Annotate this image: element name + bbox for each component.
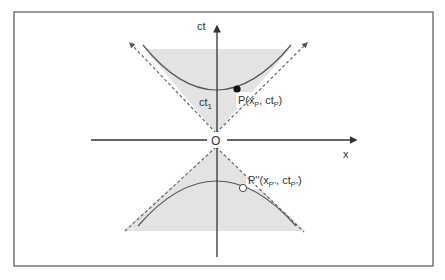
origin-label: O <box>211 134 220 148</box>
x-axis-label: x <box>343 148 349 160</box>
ct-axis-label: ct <box>197 20 206 32</box>
point-p-double-prime <box>239 184 246 191</box>
point-p <box>233 85 240 92</box>
light-cone-diagram: ct x O ct1 P(xP, ctP) P''(xP'', ctP'') <box>0 0 445 280</box>
